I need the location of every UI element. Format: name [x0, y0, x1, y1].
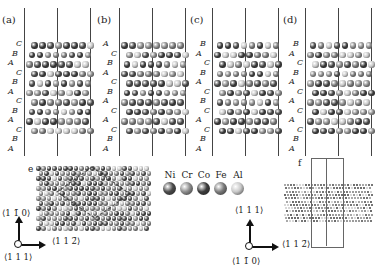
- panel-e-dashed-rhombus: [0, 0, 377, 272]
